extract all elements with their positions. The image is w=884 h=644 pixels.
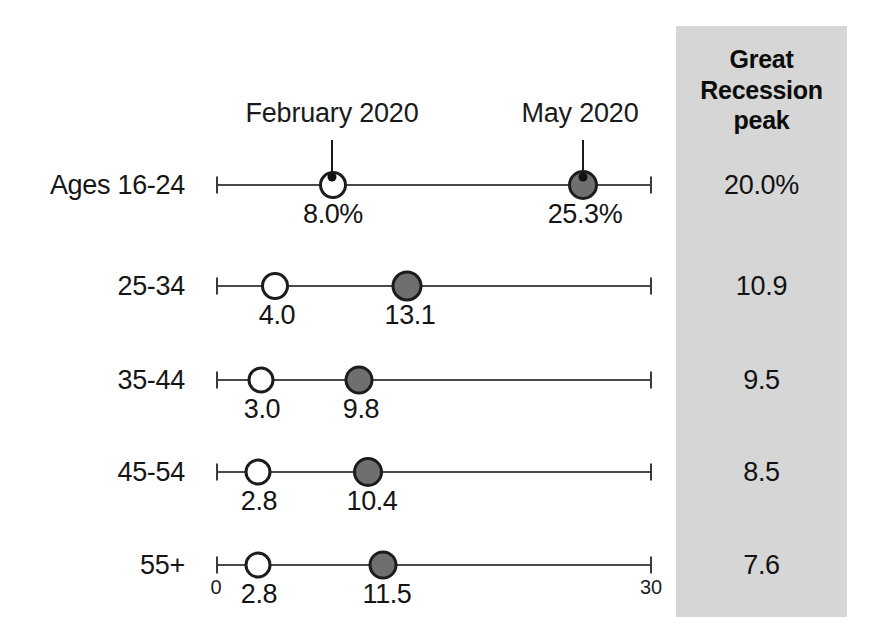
axis-cap-right bbox=[650, 177, 652, 194]
axis-cap-right bbox=[650, 372, 652, 389]
axis-cap-left bbox=[216, 177, 218, 194]
axis-cap-left bbox=[216, 372, 218, 389]
marker-february bbox=[248, 367, 275, 394]
axis-tick-label-min: 0 bbox=[210, 576, 221, 599]
peak-panel-title-line3: peak bbox=[676, 105, 847, 136]
axis-cap-left bbox=[216, 464, 218, 481]
row-category-label: 25-34 bbox=[117, 271, 185, 302]
marker-may bbox=[369, 551, 398, 580]
value-label-february: 8.0% bbox=[303, 199, 363, 230]
value-label-may: 9.8 bbox=[343, 394, 379, 425]
axis-cap-right bbox=[650, 278, 652, 295]
axis-cap-left bbox=[216, 278, 218, 295]
peak-panel-title-line2: Recession bbox=[676, 75, 847, 106]
value-label-may: 10.4 bbox=[347, 486, 398, 517]
peak-value: 20.0% bbox=[676, 170, 847, 201]
callout-dot-february bbox=[328, 173, 337, 182]
value-label-february: 2.8 bbox=[241, 579, 277, 610]
callout-dot-may bbox=[579, 173, 588, 182]
series-callout-february: February 2020 bbox=[245, 98, 418, 129]
axis-cap-right bbox=[650, 557, 652, 574]
row-axis-line bbox=[217, 564, 651, 566]
peak-value: 9.5 bbox=[676, 365, 847, 396]
great-recession-peak-panel: Great Recession peak 20.0% 10.9 9.5 8.5 … bbox=[676, 26, 847, 617]
peak-value: 10.9 bbox=[676, 271, 847, 302]
marker-february bbox=[245, 459, 272, 486]
axis-tick-label-max: 30 bbox=[640, 576, 662, 599]
peak-value: 8.5 bbox=[676, 457, 847, 488]
marker-may bbox=[345, 366, 374, 395]
axis-cap-left bbox=[216, 557, 218, 574]
value-label-may: 13.1 bbox=[385, 300, 436, 331]
value-label-may: 11.5 bbox=[363, 579, 412, 610]
axis-cap-right bbox=[650, 464, 652, 481]
value-label-february: 2.8 bbox=[241, 486, 277, 517]
row-category-label: Ages 16-24 bbox=[50, 170, 185, 201]
dot-plot-chart: February 2020 May 2020 Ages 16-24 8.0% 2… bbox=[0, 0, 884, 644]
peak-value: 7.6 bbox=[676, 550, 847, 581]
marker-february bbox=[245, 552, 272, 579]
row-category-label: 35-44 bbox=[117, 365, 185, 396]
series-callout-may: May 2020 bbox=[522, 98, 639, 129]
peak-panel-title: Great Recession peak bbox=[676, 44, 847, 136]
value-label-february: 4.0 bbox=[259, 300, 295, 331]
row-category-label: 55+ bbox=[140, 550, 185, 581]
peak-panel-title-line1: Great bbox=[676, 44, 847, 75]
value-label-february: 3.0 bbox=[244, 394, 280, 425]
marker-may bbox=[392, 271, 423, 302]
marker-february bbox=[261, 272, 289, 300]
row-category-label: 45-54 bbox=[117, 457, 185, 488]
row-axis-line bbox=[217, 379, 651, 381]
value-label-may: 25.3% bbox=[548, 199, 623, 230]
row-axis-line bbox=[217, 471, 651, 473]
marker-may bbox=[353, 457, 383, 487]
